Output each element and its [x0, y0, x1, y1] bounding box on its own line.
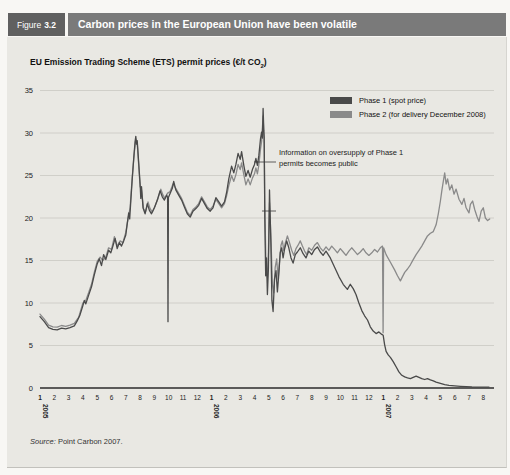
- x-tick-label: 1: [381, 394, 385, 401]
- x-tick-label: 10: [165, 394, 173, 401]
- y-tick-label-20: 20: [25, 214, 33, 223]
- x-tick-label: 2: [224, 394, 228, 401]
- x-tick-label: 6: [453, 394, 457, 401]
- x-tick-label: 4: [253, 394, 257, 401]
- y-tick-label-30: 30: [25, 129, 33, 138]
- annotation-line2: permits becomes public: [279, 158, 403, 169]
- source-prefix: Source:: [30, 437, 56, 446]
- x-tick-label: 3: [410, 394, 414, 401]
- x-tick-label: 4: [424, 394, 428, 401]
- y-tick-label-5: 5: [29, 341, 33, 350]
- y-tick-label-35: 35: [25, 86, 33, 95]
- x-tick-label: 9: [324, 394, 328, 401]
- y-tick-label-0: 0: [29, 384, 33, 393]
- year-label-2005: 2005: [42, 404, 49, 419]
- x-tick-label: 3: [238, 394, 242, 401]
- x-tick-label: 8: [138, 394, 142, 401]
- x-tick-label: 4: [81, 394, 85, 401]
- year-label-2006: 2006: [213, 404, 220, 419]
- x-tick-label: 8: [481, 394, 485, 401]
- x-tick-label: 9: [153, 394, 157, 401]
- x-tick-label: 5: [439, 394, 443, 401]
- legend-item-phase1: Phase 1 (spot price): [330, 96, 486, 105]
- x-tick-label: 8: [310, 394, 314, 401]
- x-tick-label: 5: [267, 394, 271, 401]
- source-note: Source: Point Carbon 2007.: [30, 437, 123, 446]
- phase2-swatch-icon: [330, 111, 352, 118]
- phase1-swatch-icon: [330, 97, 352, 104]
- legend-item-phase2: Phase 2 (for delivery December 2008): [330, 110, 486, 119]
- x-tick-label: 6: [281, 394, 285, 401]
- y-tick-label-10: 10: [25, 299, 33, 308]
- source-text: Point Carbon 2007.: [56, 437, 123, 446]
- y-tick-label-15: 15: [25, 256, 33, 265]
- figure-page: Figure 3.2 Carbon prices in the European…: [0, 0, 510, 475]
- x-tick-label: 2: [396, 394, 400, 401]
- chart-legend: Phase 1 (spot price) Phase 2 (for delive…: [330, 96, 486, 124]
- x-tick-label: 11: [180, 394, 187, 401]
- x-tick-label: 7: [124, 394, 128, 401]
- x-tick-label: 7: [467, 394, 471, 401]
- price-line-chart: 0510152025303512345678910111212345678910…: [0, 0, 510, 475]
- oversupply-annotation: Information on oversupply of Phase 1 per…: [279, 147, 403, 169]
- x-tick-label: 12: [194, 394, 202, 401]
- x-tick-label: 2: [52, 394, 56, 401]
- x-tick-label: 1: [210, 394, 214, 401]
- y-tick-label-25: 25: [25, 171, 33, 180]
- annotation-line1: Information on oversupply of Phase 1: [279, 147, 403, 158]
- x-tick-label: 3: [67, 394, 71, 401]
- phase1-legend-label: Phase 1 (spot price): [359, 96, 426, 105]
- x-tick-label: 6: [110, 394, 114, 401]
- x-tick-label: 12: [365, 394, 373, 401]
- x-tick-label: 11: [351, 394, 358, 401]
- x-tick-label: 1: [38, 394, 42, 401]
- x-tick-label: 5: [95, 394, 99, 401]
- x-tick-label: 10: [337, 394, 345, 401]
- year-label-2007: 2007: [385, 404, 392, 419]
- phase2-legend-label: Phase 2 (for delivery December 2008): [359, 110, 486, 119]
- x-tick-label: 7: [296, 394, 300, 401]
